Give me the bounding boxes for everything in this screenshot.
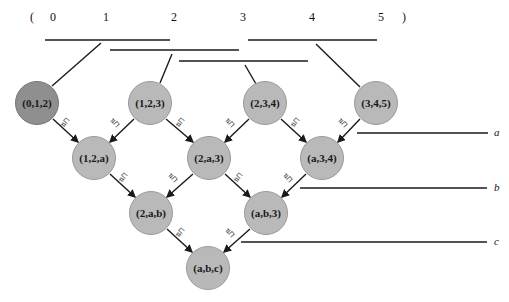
level-label-b: b xyxy=(494,181,500,193)
index-1: 1 xyxy=(103,10,109,25)
level-label-c: c xyxy=(494,235,499,247)
node-1-2-a: (1,2,a) xyxy=(72,136,116,180)
node-a-b-c: (a,b,c) xyxy=(186,246,230,290)
node-2-3-4: (2,3,4) xyxy=(243,81,287,125)
close-bracket: ) xyxy=(402,10,406,25)
index-4: 4 xyxy=(309,10,315,25)
index-5: 5 xyxy=(378,10,384,25)
index-0: 0 xyxy=(50,10,56,25)
node-2-a-b: (2,a,b) xyxy=(129,191,173,235)
index-2: 2 xyxy=(171,10,177,25)
index-3: 3 xyxy=(240,10,246,25)
node-1-2-3: (1,2,3) xyxy=(128,81,172,125)
node-a-3-4: (a,3,4) xyxy=(300,136,344,180)
node-3-4-5: (3,4,5) xyxy=(354,81,398,125)
level-label-a: a xyxy=(494,126,500,138)
node-a-b-3: (a,b,3) xyxy=(244,191,288,235)
node-0-1-2: (0,1,2) xyxy=(15,81,59,125)
window-bars xyxy=(45,40,377,61)
open-bracket: ( xyxy=(30,10,34,25)
node-2-a-3: (2,a,3) xyxy=(187,136,231,180)
